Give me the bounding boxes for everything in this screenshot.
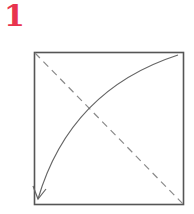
fold-diagram [0, 0, 194, 214]
